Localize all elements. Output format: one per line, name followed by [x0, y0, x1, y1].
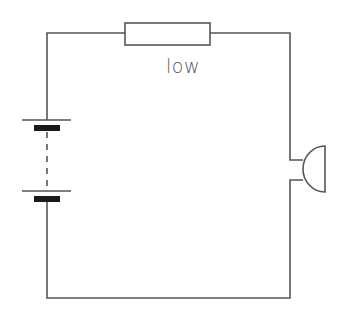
resistor [125, 23, 210, 45]
buzzer [303, 146, 325, 192]
battery-plate-short-2 [34, 196, 60, 202]
wire-top-left [47, 33, 125, 120]
circuit-svg [0, 0, 337, 315]
wire-top-right [210, 33, 303, 160]
battery-plate-short-1 [34, 125, 60, 131]
wire-right-bottom [47, 180, 303, 298]
circuit-diagram: low [0, 0, 337, 315]
resistor-label: low [148, 55, 218, 77]
